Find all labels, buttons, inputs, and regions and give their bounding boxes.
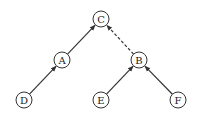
node-a: A xyxy=(54,52,70,68)
edges-group xyxy=(30,25,173,94)
nodes-group: CABDEF xyxy=(16,11,186,108)
node-label: A xyxy=(57,55,66,66)
node-label: C xyxy=(97,14,105,25)
node-label: E xyxy=(97,95,104,106)
node-label: F xyxy=(175,95,182,106)
edge-e-to-b xyxy=(107,66,134,94)
node-e: E xyxy=(93,92,109,108)
edge-a-to-c xyxy=(68,25,96,54)
node-f: F xyxy=(170,92,186,108)
tree-diagram: CABDEF xyxy=(0,0,201,118)
node-c: C xyxy=(93,11,109,27)
edge-b-to-c xyxy=(107,25,134,54)
node-label: B xyxy=(135,55,142,66)
edge-d-to-a xyxy=(30,66,57,94)
node-label: D xyxy=(20,95,28,106)
node-d: D xyxy=(16,92,32,108)
node-b: B xyxy=(131,52,147,68)
edge-f-to-b xyxy=(145,66,172,94)
